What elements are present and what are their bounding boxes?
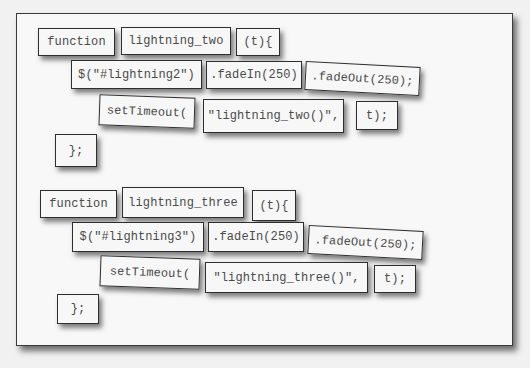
magnet-fadeout[interactable]: .fadeOut(250); xyxy=(304,61,420,96)
magnet-fadein[interactable]: .fadeIn(250) xyxy=(208,222,304,252)
magnet-timeout-arg[interactable]: t); xyxy=(356,101,398,130)
magnet-jquery-selector[interactable]: $("#lightning3") xyxy=(72,222,204,252)
magnet-function-name[interactable]: lightning_two xyxy=(121,27,231,55)
magnet-closing-brace[interactable]: }; xyxy=(55,134,97,167)
magnet-timeout-arg[interactable]: t); xyxy=(374,265,416,293)
magnet-closing-brace[interactable]: }; xyxy=(57,294,99,324)
magnet-function-keyword[interactable]: function xyxy=(40,190,117,218)
magnet-callback-string[interactable]: "lightning_two()", xyxy=(203,99,344,133)
magnet-fadeout[interactable]: .fadeOut(250); xyxy=(307,225,423,260)
magnet-settimeout[interactable]: setTimeout( xyxy=(99,255,200,289)
magnet-params-open[interactable]: (t){ xyxy=(252,190,296,221)
magnet-jquery-selector[interactable]: $("#lightning2") xyxy=(71,60,202,89)
magnet-callback-string[interactable]: "lightning_three()", xyxy=(205,262,368,293)
magnet-fadein[interactable]: .fadeIn(250) xyxy=(206,61,302,89)
magnet-params-open[interactable]: (t){ xyxy=(236,28,280,56)
magnet-function-name[interactable]: lightning_three xyxy=(122,187,244,218)
magnet-function-keyword[interactable]: function xyxy=(38,28,115,56)
magnet-settimeout[interactable]: setTimeout( xyxy=(98,94,195,128)
